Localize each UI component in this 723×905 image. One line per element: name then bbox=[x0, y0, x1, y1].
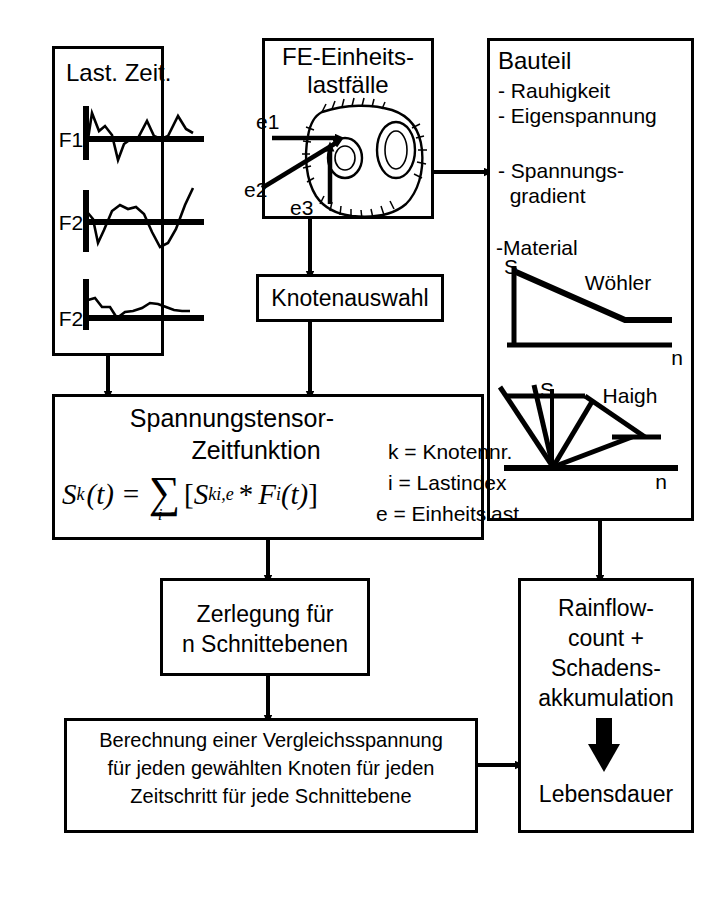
rainflow-result-arrow-layer bbox=[0, 0, 723, 905]
flowchart-canvas: Last. Zeit. F1 F2 F2 FE-Einheits- lastfä… bbox=[0, 0, 723, 905]
lebensdauer-label: Lebensdauer bbox=[518, 782, 694, 808]
thick-down-arrow-icon bbox=[588, 718, 620, 772]
